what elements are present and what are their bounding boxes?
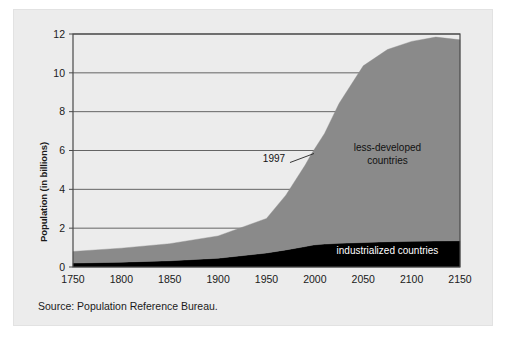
y-tick-label: 0 [59,261,65,273]
y-tick-label: 8 [59,105,65,117]
x-tick-label: 1900 [206,273,230,285]
y-tick-label: 12 [53,28,65,40]
series-label-less-developed-line2: countries [367,155,408,166]
chart-svg: 024681012 175018001850190019502000205021… [14,10,492,325]
chart-figure: Population (in billions) 024681012 17501… [14,10,492,325]
x-tick-labels-group: 175018001850190019502000205021002150 [61,273,472,285]
x-tick-label: 2150 [448,273,472,285]
y-tick-label: 10 [53,67,65,79]
series-label-industrialized: industrialized countries [337,245,439,256]
x-tick-label: 1950 [255,273,279,285]
x-tick-label: 2000 [303,273,327,285]
source-note: Source: Population Reference Bureau. [38,300,218,312]
series-label-less-developed: less-developed [354,142,421,153]
y-tick-labels-group: 024681012 [53,28,73,273]
y-tick-label: 6 [59,144,65,156]
y-tick-label: 4 [59,183,65,195]
chart-plot-area: 024681012 175018001850190019502000205021… [14,10,492,325]
x-tick-label: 2050 [352,273,376,285]
x-tick-label: 2100 [400,273,424,285]
x-tick-label: 1750 [61,273,85,285]
annotation-1997-label: 1997 [263,153,286,164]
x-tick-label: 1850 [158,273,182,285]
x-tick-label: 1800 [110,273,134,285]
y-tick-label: 2 [59,222,65,234]
